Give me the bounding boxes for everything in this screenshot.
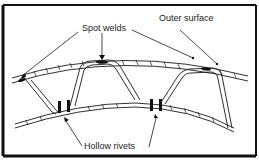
outer-skin [12, 60, 248, 83]
label-hollow-rivets: Hollow rivets [84, 142, 135, 151]
hollow-rivets [58, 99, 162, 113]
structure-drawing [0, 0, 259, 162]
label-spot-welds: Spot welds [82, 24, 126, 33]
label-outer-surface: Outer surface [159, 14, 214, 23]
diagram-frame: Spot welds Outer surface Hollow rivets [0, 0, 259, 162]
leader-lines [22, 30, 217, 147]
